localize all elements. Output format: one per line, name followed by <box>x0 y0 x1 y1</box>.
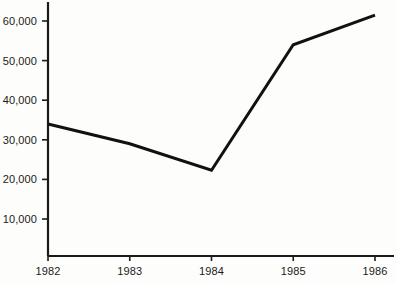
y-tick-label: 20,000 <box>0 173 37 185</box>
y-tick-label: 40,000 <box>0 94 37 106</box>
x-tick-label: 1982 <box>36 265 61 277</box>
x-tick-label: 1986 <box>363 265 388 277</box>
y-tick-label: 30,000 <box>0 134 37 146</box>
y-tick-label: 50,000 <box>0 55 37 67</box>
x-tick-label: 1983 <box>117 265 142 277</box>
axis-lines <box>48 2 394 256</box>
data-line <box>48 15 375 170</box>
y-tick-label: 60,000 <box>0 15 37 27</box>
plot-area <box>0 0 396 284</box>
x-tick-label: 1984 <box>199 265 224 277</box>
line-chart: 10,00020,00030,00040,00050,00060,000 198… <box>0 0 396 284</box>
x-tick-label: 1985 <box>281 265 306 277</box>
data-series <box>48 15 375 170</box>
y-tick-label: 10,000 <box>0 213 37 225</box>
